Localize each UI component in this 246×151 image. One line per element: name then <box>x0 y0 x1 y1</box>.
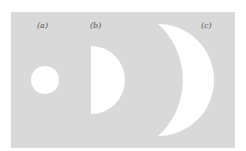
figure-a-label: (a) <box>37 22 48 30</box>
figure-a-disc <box>31 66 59 94</box>
figure-b-half-disc <box>91 46 125 114</box>
figure-b-label: (b) <box>90 22 101 30</box>
figure-c-label: (c) <box>201 22 212 30</box>
figure-c-crescent <box>158 24 214 136</box>
